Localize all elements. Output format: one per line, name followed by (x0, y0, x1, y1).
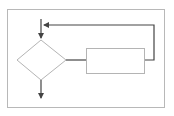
process-box (87, 49, 145, 74)
flowchart-diagram (0, 0, 174, 116)
